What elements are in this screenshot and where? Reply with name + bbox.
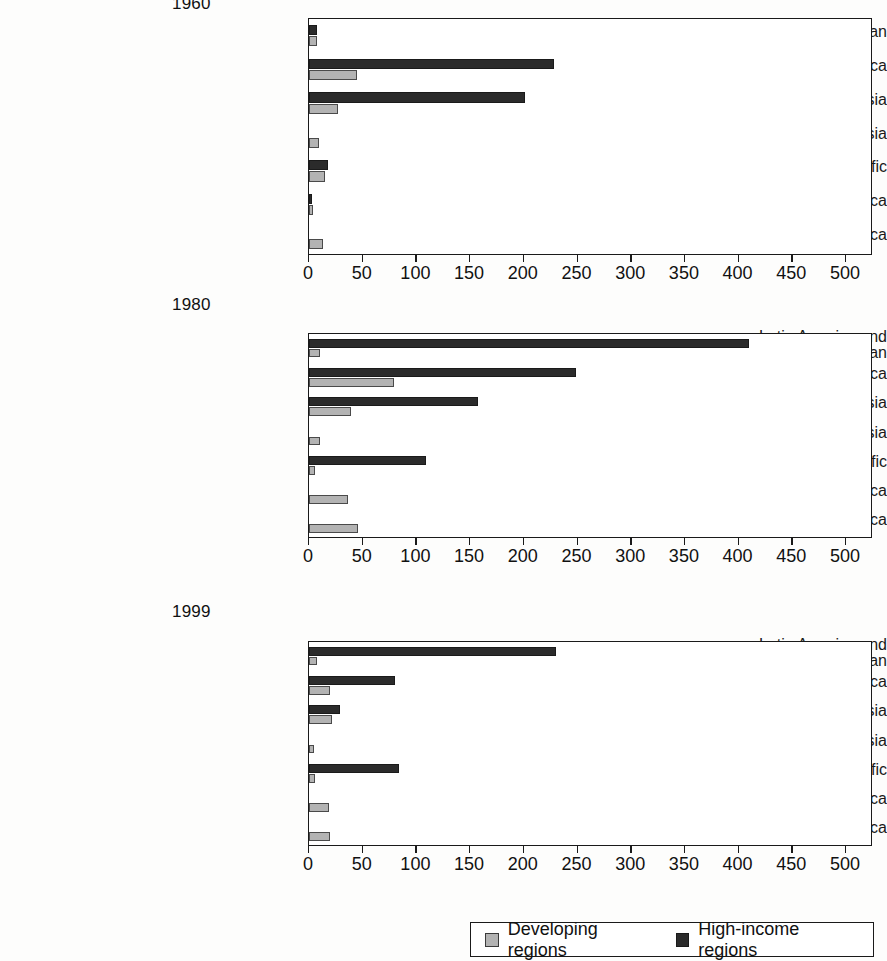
x-axis-tick (469, 538, 470, 545)
bar-developing (309, 104, 338, 114)
x-axis-tick (684, 255, 685, 262)
bar-developing (309, 205, 313, 215)
bar-developing (309, 378, 394, 387)
x-axis-tick-label: 50 (352, 546, 372, 567)
x-axis-tick (577, 538, 578, 545)
x-axis-tick-label: 50 (352, 854, 372, 875)
legend-swatch-high-income-icon (676, 933, 690, 947)
x-axis-tick-label: 350 (669, 263, 699, 284)
bar-high-income (309, 92, 525, 102)
x-axis-tick (630, 255, 631, 262)
bar-developing (309, 745, 314, 754)
bar-developing (309, 803, 329, 812)
x-axis-tick-label: 150 (454, 263, 484, 284)
x-axis-tick (791, 255, 792, 262)
x-axis-tick-label: 500 (830, 263, 860, 284)
x-axis-tick-label: 250 (561, 546, 591, 567)
x-axis-tick-label: 450 (776, 854, 806, 875)
chart-title: 1999 (172, 602, 211, 622)
bar-developing (309, 36, 317, 46)
bar-developing (309, 686, 330, 695)
x-axis-tick-label: 300 (615, 263, 645, 284)
x-axis-tick-label: 400 (723, 546, 753, 567)
x-axis-tick-label: 400 (723, 854, 753, 875)
x-axis-tick (469, 846, 470, 853)
x-axis-tick (523, 538, 524, 545)
x-axis-tick (523, 846, 524, 853)
bar-developing (309, 715, 332, 724)
bar-developing (309, 349, 320, 358)
x-axis-tick-label: 250 (561, 263, 591, 284)
x-axis-tick (791, 538, 792, 545)
plot-area (308, 333, 872, 538)
bar-developing (309, 138, 319, 148)
bar-developing (309, 495, 348, 504)
bar-developing (309, 524, 358, 533)
bar-high-income (309, 339, 749, 348)
bar-developing (309, 70, 357, 80)
bar-high-income (309, 705, 340, 714)
bar-high-income (309, 647, 556, 656)
x-axis-tick (362, 846, 363, 853)
bar-developing (309, 171, 325, 181)
bar-developing (309, 774, 315, 783)
plot-area (308, 641, 872, 846)
bar-high-income (309, 456, 426, 465)
x-axis-tick (308, 255, 309, 262)
bar-high-income (309, 25, 317, 35)
x-axis-tick-label: 350 (669, 546, 699, 567)
bar-developing (309, 239, 323, 249)
legend-swatch-developing-icon (485, 933, 499, 947)
x-axis-tick-label: 100 (400, 546, 430, 567)
x-axis-tick-label: 0 (303, 854, 313, 875)
x-axis-tick (362, 538, 363, 545)
x-axis-tick (577, 255, 578, 262)
x-axis-tick-label: 50 (352, 263, 372, 284)
x-axis-tick-label: 500 (830, 546, 860, 567)
x-axis-tick (684, 538, 685, 545)
x-axis-tick-label: 100 (400, 854, 430, 875)
bar-developing (309, 466, 315, 475)
bar-developing (309, 657, 317, 666)
bar-developing (309, 832, 330, 841)
x-axis-tick (845, 846, 846, 853)
x-axis-tick (415, 538, 416, 545)
x-axis-tick (308, 846, 309, 853)
x-axis-tick (415, 846, 416, 853)
x-axis-tick (630, 846, 631, 853)
legend-label: High-income regions (698, 919, 859, 961)
x-axis-tick (738, 255, 739, 262)
x-axis-tick (738, 846, 739, 853)
x-axis-tick-label: 300 (615, 546, 645, 567)
bar-high-income (309, 194, 312, 204)
x-axis-tick (577, 846, 578, 853)
bar-high-income (309, 676, 395, 685)
x-axis-tick (845, 255, 846, 262)
x-axis-tick-label: 300 (615, 854, 645, 875)
chart-title: 1960 (172, 0, 211, 14)
x-axis-tick (738, 538, 739, 545)
legend-item-developing[interactable]: Developing regions (485, 919, 658, 961)
chart-title: 1980 (172, 295, 211, 315)
bar-developing (309, 437, 320, 446)
x-axis-tick-label: 0 (303, 263, 313, 284)
bar-high-income (309, 160, 328, 170)
x-axis-tick (469, 255, 470, 262)
x-axis-tick (523, 255, 524, 262)
x-axis-tick-label: 200 (508, 546, 538, 567)
bar-high-income (309, 59, 554, 69)
x-axis-tick (415, 255, 416, 262)
x-axis-tick-label: 250 (561, 854, 591, 875)
x-axis-tick-label: 0 (303, 546, 313, 567)
x-axis-tick (362, 255, 363, 262)
legend-label: Developing regions (508, 919, 658, 961)
plot-area (308, 18, 872, 255)
chart-legend: Developing regionsHigh-income regions (470, 922, 874, 957)
x-axis-tick-label: 350 (669, 854, 699, 875)
bar-high-income (309, 368, 576, 377)
bar-high-income (309, 397, 478, 406)
legend-item-high_income[interactable]: High-income regions (676, 919, 859, 961)
x-axis-tick-label: 200 (508, 854, 538, 875)
bar-developing (309, 407, 351, 416)
x-axis-tick (630, 538, 631, 545)
